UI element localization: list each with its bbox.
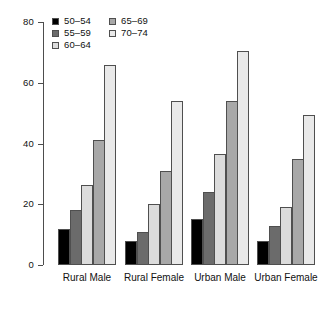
bar: [269, 226, 281, 265]
y-axis-tick-label-wrap: 60: [0, 78, 34, 88]
bar-group: [191, 22, 249, 265]
y-axis-tick-label-wrap: 80: [0, 17, 34, 27]
legend-swatch-icon: [52, 18, 59, 25]
bar: [303, 115, 315, 265]
bar-chart: 020406080 Rural MaleRural FemaleUrban Ma…: [0, 0, 322, 311]
bar: [70, 210, 82, 265]
y-axis-tick: [38, 144, 43, 145]
bar: [58, 229, 70, 265]
bar-group: [257, 22, 315, 265]
legend-item: 70–74: [109, 28, 148, 38]
legend-swatch-icon: [109, 18, 116, 25]
y-axis-tick-label-wrap: 40: [0, 139, 34, 149]
legend-label: 55–59: [64, 28, 91, 38]
y-axis-tick-label: 0: [8, 260, 34, 270]
chart-legend: 50–5455–5960–6465–6970–74: [52, 16, 164, 52]
bar: [93, 140, 105, 265]
bar: [171, 101, 183, 265]
bar: [214, 154, 226, 265]
bar: [203, 192, 215, 265]
y-axis-tick: [38, 265, 43, 266]
y-axis-tick: [38, 22, 43, 23]
bar: [292, 159, 304, 265]
legend-swatch-icon: [109, 30, 116, 37]
y-axis-tick-label: 20: [8, 199, 34, 209]
legend-label: 70–74: [121, 28, 148, 38]
legend-label: 50–54: [64, 16, 91, 26]
bar-group: [125, 22, 183, 265]
legend-item: 65–69: [109, 16, 148, 26]
bar: [137, 232, 149, 265]
y-axis-tick-label: 40: [8, 139, 34, 149]
legend-item: 60–64: [52, 40, 91, 50]
y-axis-tick-label: 80: [8, 17, 34, 27]
bar: [280, 207, 292, 265]
bar: [148, 204, 160, 265]
bar-group: [58, 22, 116, 265]
legend-label: 65–69: [121, 16, 148, 26]
y-axis-tick: [38, 83, 43, 84]
bar: [125, 241, 137, 265]
y-axis-tick-label-wrap: 20: [0, 199, 34, 209]
plot-area: [44, 22, 318, 265]
legend-swatch-icon: [52, 42, 59, 49]
y-axis-tick-label: 60: [8, 78, 34, 88]
bar: [257, 241, 269, 265]
legend-item: 55–59: [52, 28, 91, 38]
y-axis-tick-label-wrap: 0: [0, 260, 34, 270]
bar: [237, 51, 249, 265]
legend-label: 60–64: [64, 40, 91, 50]
bar: [104, 65, 116, 265]
y-axis-tick: [38, 204, 43, 205]
bar: [191, 219, 203, 265]
legend-item: 50–54: [52, 16, 91, 26]
bar: [160, 171, 172, 265]
bar: [226, 101, 238, 265]
bar: [81, 185, 93, 265]
x-axis-label: Urban Female: [241, 272, 322, 283]
legend-swatch-icon: [52, 30, 59, 37]
